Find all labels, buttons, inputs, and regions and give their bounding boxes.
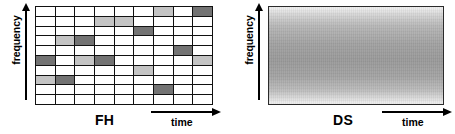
fh-cell-r6-c4 (95, 56, 115, 66)
fh-cell-r4-c8 (174, 36, 194, 46)
fh-cell-r5-c1 (36, 46, 56, 56)
fh-cell-r7-c1 (36, 66, 56, 76)
fh-cell-r4-c9 (193, 36, 213, 46)
fh-cell-r6-c7 (154, 56, 174, 66)
fh-cell-r10-c7 (154, 95, 174, 105)
fh-cell-r6-c6 (134, 56, 154, 66)
fh-cell-r4-c1 (36, 36, 56, 46)
fh-cell-r7-c6 (134, 66, 154, 76)
fh-cell-r10-c8 (174, 95, 194, 105)
fh-cell-r8-c6 (134, 76, 154, 86)
spread-spectrum-figure: frequency FH time frequency DS time (0, 0, 455, 134)
fh-frequency-axis-label: frequency (10, 1, 22, 79)
fh-cell-r8-c7 (154, 76, 174, 86)
fh-cell-r8-c3 (75, 76, 95, 86)
fh-cell-r10-c9 (193, 95, 213, 105)
fh-time-axis-label: time (171, 116, 193, 128)
fh-cell-r9-c8 (174, 85, 194, 95)
fh-cell-r10-c2 (56, 95, 76, 105)
fh-cell-r5-c9 (193, 46, 213, 56)
ds-spectrum-block (268, 6, 444, 105)
fh-time-axis: time (151, 108, 231, 134)
fh-cell-r5-c4 (95, 46, 115, 56)
fh-cell-r3-c1 (36, 27, 56, 37)
fh-cell-r5-c8 (174, 46, 194, 56)
ds-time-arrow-icon (382, 111, 444, 113)
fh-cell-r8-c1 (36, 76, 56, 86)
fh-cell-r3-c7 (154, 27, 174, 37)
fh-cell-r5-c6 (134, 46, 154, 56)
fh-cell-r1-c8 (174, 7, 194, 17)
fh-cell-r7-c2 (56, 66, 76, 76)
fh-cell-r1-c4 (95, 7, 115, 17)
fh-cell-r6-c8 (174, 56, 194, 66)
fh-cell-r1-c5 (115, 7, 135, 17)
fh-cell-r2-c9 (193, 17, 213, 27)
fh-cell-r9-c7 (154, 85, 174, 95)
fh-cell-r2-c1 (36, 17, 56, 27)
fh-cell-r2-c6 (134, 17, 154, 27)
fh-cell-r2-c8 (174, 17, 194, 27)
fh-time-arrow-icon (151, 111, 213, 113)
fh-cell-r8-c4 (95, 76, 115, 86)
ds-frequency-arrow-icon (258, 10, 260, 100)
fh-cell-r5-c7 (154, 46, 174, 56)
fh-cell-r9-c4 (95, 85, 115, 95)
fh-cell-r9-c3 (75, 85, 95, 95)
fh-cell-r3-c2 (56, 27, 76, 37)
fh-cell-r3-c5 (115, 27, 135, 37)
fh-cell-r1-c2 (56, 7, 76, 17)
ds-time-axis: time (382, 108, 455, 134)
fh-cell-r2-c3 (75, 17, 95, 27)
fh-cell-r10-c6 (134, 95, 154, 105)
fh-cell-r7-c8 (174, 66, 194, 76)
fh-cell-r4-c7 (154, 36, 174, 46)
fh-cell-r2-c2 (56, 17, 76, 27)
fh-scheme-label: FH (95, 112, 114, 128)
fh-cell-r10-c1 (36, 95, 56, 105)
fh-cell-r5-c3 (75, 46, 95, 56)
fh-cell-r4-c5 (115, 36, 135, 46)
fh-cell-r4-c6 (134, 36, 154, 46)
fh-cell-r4-c2 (56, 36, 76, 46)
fh-cell-r8-c2 (56, 76, 76, 86)
fh-cell-r4-c4 (95, 36, 115, 46)
fh-frequency-axis: frequency (3, 6, 33, 106)
fh-cell-r7-c3 (75, 66, 95, 76)
fh-cell-r4-c3 (75, 36, 95, 46)
fh-cell-r3-c6 (134, 27, 154, 37)
fh-cell-r6-c5 (115, 56, 135, 66)
fh-cell-r9-c5 (115, 85, 135, 95)
fh-cell-r9-c1 (36, 85, 56, 95)
fh-cell-r3-c4 (95, 27, 115, 37)
fh-cell-r6-c9 (193, 56, 213, 66)
fh-cell-r8-c9 (193, 76, 213, 86)
fh-cell-r6-c2 (56, 56, 76, 66)
ds-frequency-axis-label: frequency (243, 1, 255, 79)
fh-cell-r7-c9 (193, 66, 213, 76)
ds-time-axis-label: time (402, 116, 424, 128)
fh-cell-r10-c5 (115, 95, 135, 105)
fh-cell-r1-c1 (36, 7, 56, 17)
fh-cell-r1-c9 (193, 7, 213, 17)
fh-cell-r7-c7 (154, 66, 174, 76)
fh-cell-r1-c3 (75, 7, 95, 17)
fh-cell-r2-c4 (95, 17, 115, 27)
fh-cell-r9-c2 (56, 85, 76, 95)
fh-cell-r10-c4 (95, 95, 115, 105)
fh-cell-r5-c2 (56, 46, 76, 56)
fh-cell-r10-c3 (75, 95, 95, 105)
ds-spectrum-texture (269, 7, 443, 104)
fh-cell-r2-c5 (115, 17, 135, 27)
fh-cell-r7-c4 (95, 66, 115, 76)
fh-cell-r1-c7 (154, 7, 174, 17)
fh-cell-r6-c1 (36, 56, 56, 66)
fh-cell-r9-c6 (134, 85, 154, 95)
fh-cell-r8-c8 (174, 76, 194, 86)
ds-frequency-axis: frequency (236, 6, 266, 106)
fh-cell-r1-c6 (134, 7, 154, 17)
fh-cell-r7-c5 (115, 66, 135, 76)
fh-cell-r8-c5 (115, 76, 135, 86)
fh-cell-r5-c5 (115, 46, 135, 56)
fh-cell-r3-c8 (174, 27, 194, 37)
